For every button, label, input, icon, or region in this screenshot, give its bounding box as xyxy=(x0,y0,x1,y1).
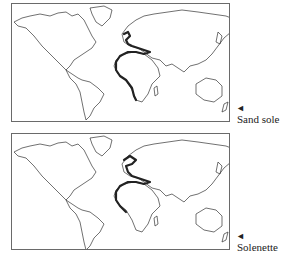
species-label: Solenette xyxy=(237,241,278,253)
species-range xyxy=(116,156,150,212)
species-range xyxy=(116,32,150,100)
world-map-outline xyxy=(12,4,230,122)
pointer-arrow-icon: ◄ xyxy=(236,104,245,113)
world-map-solenette xyxy=(11,133,230,250)
species-label: Sand sole xyxy=(237,113,279,125)
pointer-arrow-icon: ◄ xyxy=(236,232,245,241)
world-map-outline xyxy=(12,134,230,250)
world-map-sand-sole xyxy=(11,3,230,122)
